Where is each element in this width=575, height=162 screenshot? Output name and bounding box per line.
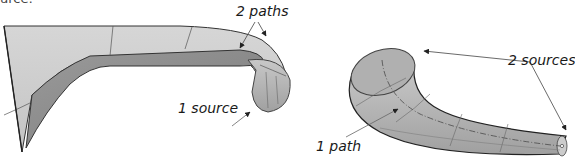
label-2-paths: 2 paths <box>236 3 288 19</box>
label-1-path: 1 path <box>316 138 361 154</box>
label-1-source: 1 source <box>178 100 238 116</box>
label-2-sources: 2 sources <box>508 52 575 68</box>
sweep-shape-left <box>4 26 290 152</box>
